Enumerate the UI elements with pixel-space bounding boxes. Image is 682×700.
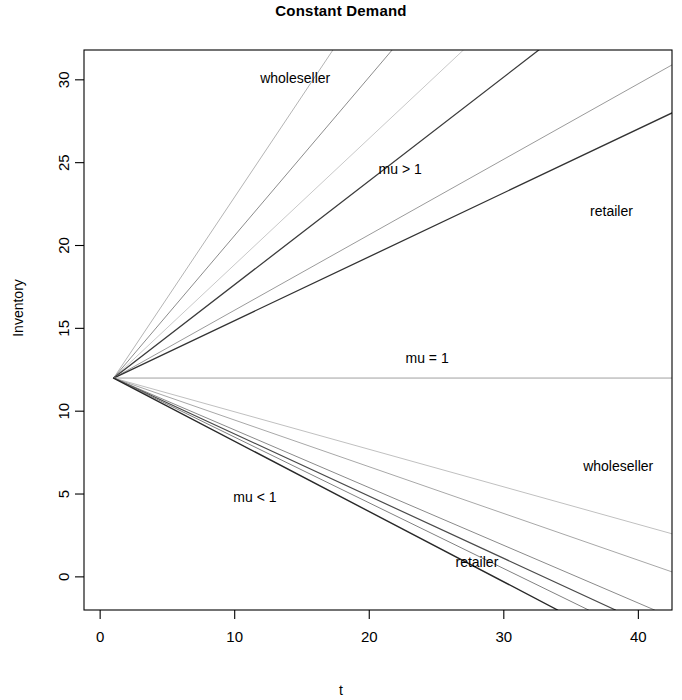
series-line-8: [114, 378, 672, 572]
y-tick-label: 10: [56, 403, 73, 420]
series-line-3: [114, 50, 539, 378]
y-tick-label: 15: [56, 320, 73, 337]
plot-annotation-0: wholeseller: [259, 70, 330, 86]
x-tick-label: 10: [226, 628, 243, 645]
y-tick-label: 25: [56, 154, 73, 171]
series-line-12: [114, 378, 558, 610]
series-line-9: [114, 378, 655, 610]
series-line-0: [114, 50, 333, 378]
series-layer: [114, 50, 672, 610]
plot-annotation-2: retailer: [590, 203, 633, 219]
series-line-1: [114, 50, 393, 378]
x-tick-label: 40: [630, 628, 647, 645]
x-tick-label: 0: [96, 628, 104, 645]
series-line-5: [114, 113, 672, 378]
x-axis-title: t: [0, 682, 682, 698]
plot-annotation-5: mu < 1: [233, 489, 276, 505]
y-tick-label: 5: [56, 490, 73, 498]
plot-annotation-1: mu > 1: [379, 161, 422, 177]
axes-layer: [84, 50, 672, 610]
series-line-4: [114, 65, 672, 378]
plot-annotation-3: mu = 1: [405, 350, 448, 366]
plot-border: [84, 50, 672, 610]
ticks-layer: 010203040051015202530: [56, 71, 647, 645]
chart-figure: Constant Demand 010203040051015202530 wh…: [0, 0, 682, 700]
plot-canvas: 010203040051015202530 wholesellermu > 1r…: [0, 0, 682, 700]
plot-annotation-4: wholeseller: [582, 458, 653, 474]
y-axis-title: Inventory: [10, 258, 26, 358]
y-tick-label: 30: [56, 71, 73, 88]
y-tick-label: 0: [56, 573, 73, 581]
plot-annotation-6: retailer: [456, 554, 499, 570]
series-line-2: [114, 50, 464, 378]
y-tick-label: 20: [56, 237, 73, 254]
x-tick-label: 20: [361, 628, 378, 645]
series-line-7: [114, 378, 672, 534]
x-tick-label: 30: [495, 628, 512, 645]
annotations-layer: wholesellermu > 1retailermu = 1wholesell…: [233, 70, 653, 570]
series-line-10: [114, 378, 616, 610]
series-line-11: [114, 378, 589, 610]
